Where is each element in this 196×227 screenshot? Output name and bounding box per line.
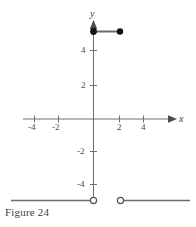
y-tick-label--4: -4	[77, 179, 85, 189]
x-tick-label--4: -4	[28, 122, 36, 132]
x-tick-label--2: -2	[52, 122, 60, 132]
x-axis-arrowhead	[168, 115, 177, 123]
x-axis-label: x	[179, 113, 183, 124]
y-tick-label-4: 4	[81, 45, 86, 55]
figure-caption: Figure 24	[5, 206, 49, 218]
endpoint-filled-left-top	[90, 28, 97, 35]
y-tick-label-2: 2	[81, 80, 86, 90]
endpoint-open-x2-bottom	[117, 197, 123, 203]
x-tick-label-2: 2	[117, 122, 122, 132]
y-axis-label: y	[90, 8, 94, 19]
y-tick-label--2: -2	[77, 146, 85, 156]
x-tick-label-4: 4	[141, 122, 146, 132]
figure-container: -4 -2 2 4 4 2 -2 -4 x y Figure 24	[0, 0, 196, 227]
y-axis-arrowhead	[90, 20, 97, 29]
graph-canvas	[0, 0, 196, 227]
endpoint-open-origin-bottom	[90, 197, 96, 203]
endpoint-filled-right-top	[117, 28, 123, 34]
